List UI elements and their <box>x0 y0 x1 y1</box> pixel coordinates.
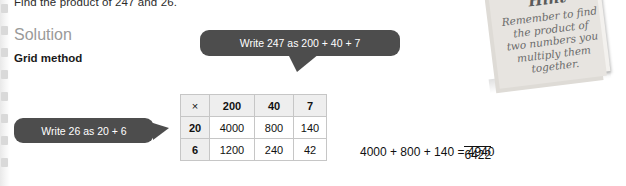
table-row: 20 4000 800 140 <box>181 117 327 139</box>
page-edge-tick <box>1 26 8 35</box>
page-edge-tick <box>1 4 8 13</box>
grid-method-table: × 200 40 7 20 4000 800 140 6 1200 240 42 <box>180 94 327 161</box>
worksheet-page: Find the product of 247 and 26. Solution… <box>0 0 626 186</box>
solution-heading: Solution <box>14 26 72 44</box>
grid-cell-1-0: 1200 <box>210 139 255 161</box>
page-edge-tick <box>1 92 8 101</box>
callout-write-26: Write 26 as 20 + 6 <box>14 118 154 143</box>
method-heading: Grid method <box>14 52 82 64</box>
working-total: 6422 <box>464 146 491 162</box>
callout-tail-icon <box>153 123 169 140</box>
question-text: Find the product of 247 and 26. <box>14 0 177 8</box>
callout-left-label: Write 26 as 20 + 6 <box>41 125 126 137</box>
grid-col-header-0: 200 <box>210 95 255 117</box>
hint-sticky-note: Hint Remember to find the product of two… <box>492 0 611 84</box>
grid-cell-0-0: 4000 <box>210 117 255 139</box>
page-edge-tick <box>1 136 8 145</box>
grid-col-header-2: 7 <box>294 95 327 117</box>
callout-top-label: Write 247 as 200 + 40 + 7 <box>240 37 361 49</box>
grid-cell-1-2: 42 <box>294 139 327 161</box>
grid-corner-symbol: × <box>181 95 210 117</box>
table-row: × 200 40 7 <box>181 95 327 117</box>
grid-row-header-1: 6 <box>181 139 210 161</box>
grid-cell-0-2: 140 <box>294 117 327 139</box>
grid-cell-1-1: 240 <box>255 139 294 161</box>
grid-col-header-1: 40 <box>255 95 294 117</box>
page-edge-tick <box>1 48 8 57</box>
page-edge-tick <box>1 114 8 123</box>
page-edge-tick <box>1 70 8 79</box>
callout-write-247: Write 247 as 200 + 40 + 7 <box>200 30 400 56</box>
table-row: 6 1200 240 42 <box>181 139 327 161</box>
page-edge-tick <box>1 158 8 167</box>
grid-row-header-0: 20 <box>181 117 210 139</box>
callout-tail-icon <box>288 54 319 72</box>
grid-cell-0-1: 800 <box>255 117 294 139</box>
working-total-row: 1200 + 240 + 42 = 6422 <box>360 146 491 162</box>
hint-body: Remember to find the product of two numb… <box>501 4 604 78</box>
